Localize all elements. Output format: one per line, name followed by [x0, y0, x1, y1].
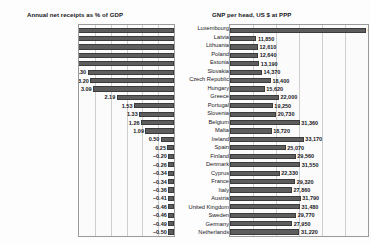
table-row: 3.20 — [79, 76, 174, 84]
table-row: 31,480 — [230, 203, 368, 211]
table-row: –0.41 — [79, 194, 174, 202]
table-row: –0.26 — [79, 161, 174, 169]
bar — [230, 70, 262, 75]
bar — [168, 179, 174, 184]
table-row: 20,730 — [230, 110, 368, 118]
table-row: 1.26 — [79, 118, 174, 126]
country-label: Luxembourg — [197, 26, 229, 32]
table-row: –0.49 — [79, 219, 174, 227]
bar-value-label: 25,070 — [287, 145, 304, 151]
list-item: Belgium — [175, 118, 229, 126]
list-item: Estonia — [175, 59, 229, 67]
bar — [230, 221, 292, 226]
bar-value-label: –0.34 — [153, 170, 167, 176]
table-row: 27,860 — [230, 186, 368, 194]
bar — [230, 120, 300, 125]
country-label: Belgium — [208, 120, 229, 126]
country-label: Italy — [219, 188, 229, 194]
left-bar-rows: 5.834.444.433.793.783.303.203.092.191.53… — [79, 25, 174, 236]
bar — [230, 36, 256, 41]
list-item: Spain — [175, 144, 229, 152]
bar — [230, 154, 296, 159]
bar — [134, 103, 174, 108]
table-row: 12,610 — [230, 43, 368, 51]
table-row: 29,320 — [230, 177, 368, 185]
table-row: 33,170 — [230, 135, 368, 143]
bar-value-label: 15,620 — [266, 86, 283, 92]
bar — [230, 28, 366, 33]
bar — [145, 128, 174, 133]
list-item: Hungary — [175, 84, 229, 92]
bar-value-label: –0.50 — [153, 229, 167, 235]
chart-figure: Annual net receipts as % of GDP GNP per … — [0, 0, 371, 244]
bar-value-label: 18,400 — [272, 78, 289, 84]
right-bar-rows: 61,22011,85012,61012,64013,19014,37018,4… — [230, 25, 368, 236]
table-row: –0.46 — [79, 211, 174, 219]
bar — [230, 213, 296, 218]
list-item: Italy — [175, 186, 229, 194]
bar — [230, 137, 304, 142]
bar-value-label: –0.36 — [153, 187, 167, 193]
table-row: 12,640 — [230, 51, 368, 59]
left-plot-area: 5.834.444.433.793.783.303.203.092.191.53… — [78, 24, 175, 237]
bar — [168, 229, 174, 234]
table-row: 29,560 — [230, 152, 368, 160]
list-item: Czech Republic — [175, 76, 229, 84]
country-label: Malta — [215, 128, 229, 134]
country-label: Lithuania — [206, 43, 229, 49]
table-row: –0.46 — [79, 203, 174, 211]
table-row: 4.43 — [79, 43, 174, 51]
country-axis-labels: LuxembourgLatviaLithuaniaPolandEstoniaSl… — [175, 24, 229, 237]
bar — [88, 70, 174, 75]
bar-value-label: 31,790 — [302, 195, 319, 201]
list-item: Luxembourg — [175, 25, 229, 33]
bar — [78, 28, 174, 33]
bar-value-label: 20,730 — [278, 111, 295, 117]
bar — [168, 221, 174, 226]
bar-value-label: 61,220 — [368, 27, 369, 33]
table-row: 18,400 — [230, 76, 368, 84]
right-chart-panel: 61,22011,85012,61012,64013,19014,37018,4… — [229, 24, 369, 237]
table-row: –0.20 — [79, 152, 174, 160]
table-row: 3.78 — [79, 60, 174, 68]
table-row: 29,770 — [230, 211, 368, 219]
list-item: Slovenia — [175, 110, 229, 118]
bar-value-label: 3.09 — [81, 86, 92, 92]
list-item: Lithuania — [175, 42, 229, 50]
table-row: –0.36 — [79, 186, 174, 194]
country-label: United Kingdom — [189, 205, 229, 211]
bar — [168, 154, 174, 159]
left-chart-title: Annual net receipts as % of GDP — [27, 11, 123, 18]
table-row: 18,720 — [230, 127, 368, 135]
bar-value-label: 3.20 — [78, 78, 89, 84]
left-chart-panel: 5.834.444.433.793.783.303.203.092.191.53… — [14, 24, 175, 237]
bar — [167, 145, 174, 150]
table-row: 31,220 — [230, 228, 368, 236]
table-row: 3.30 — [79, 68, 174, 76]
bar — [90, 78, 174, 83]
table-row: 31,550 — [230, 161, 368, 169]
bar — [230, 171, 280, 176]
bar-value-label: 1.26 — [129, 120, 140, 126]
bar-value-label: 29,770 — [298, 212, 315, 218]
bar — [230, 103, 273, 108]
bar — [78, 53, 174, 58]
bar-value-label: 13,190 — [261, 61, 278, 67]
bar-value-label: 22,000 — [280, 94, 297, 100]
country-label: Finland — [210, 154, 229, 160]
table-row: 4.44 — [79, 34, 174, 42]
right-plot-area: 61,22011,85012,61012,64013,19014,37018,4… — [229, 24, 369, 237]
list-item: Netherlands — [175, 229, 229, 237]
country-label: Slovakia — [208, 69, 230, 75]
bar-value-label: 27,860 — [294, 187, 311, 193]
country-label: Poland — [211, 52, 229, 58]
bar-value-label: 12,610 — [260, 44, 277, 50]
bar — [230, 86, 265, 91]
bar-value-label: 33,170 — [305, 136, 322, 142]
country-label: France — [211, 179, 229, 185]
bar-value-label: 19,250 — [274, 103, 291, 109]
bar — [141, 120, 174, 125]
bar-value-label: 1.33 — [127, 111, 138, 117]
bar — [230, 204, 300, 209]
bar — [78, 36, 174, 41]
